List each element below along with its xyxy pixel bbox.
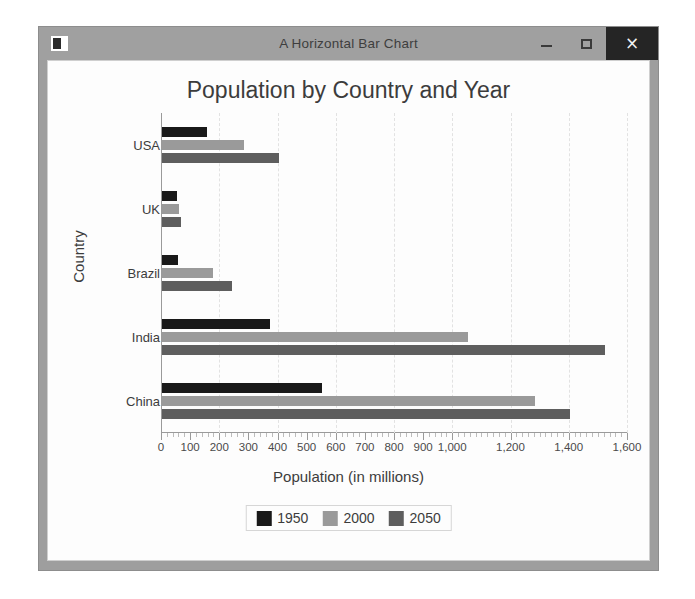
- x-tick-minor: [347, 433, 348, 437]
- bar-usa-1950: [162, 127, 207, 137]
- x-tick-minor: [283, 433, 284, 437]
- x-tick-minor: [551, 433, 552, 437]
- x-tick-minor: [580, 433, 581, 437]
- legend-label-2000: 2000: [343, 510, 374, 526]
- maximize-button[interactable]: [566, 27, 606, 60]
- x-tick-minor: [289, 433, 290, 437]
- x-tick-minor: [540, 433, 541, 437]
- x-tick-label: 0: [158, 441, 164, 453]
- y-tick-label-usa: USA: [100, 138, 160, 153]
- x-tick-minor: [411, 433, 412, 437]
- x-tick-major: [511, 433, 512, 440]
- x-tick-minor: [610, 433, 611, 437]
- x-tick-major: [365, 433, 366, 440]
- bar-india-2050: [162, 345, 605, 355]
- y-tick-label-china: China: [100, 394, 160, 409]
- x-tick-minor: [604, 433, 605, 437]
- x-tick-major: [423, 433, 424, 440]
- chart-title: Population by Country and Year: [48, 77, 649, 104]
- x-tick-minor: [563, 433, 564, 437]
- y-tick-label-india: India: [100, 330, 160, 345]
- y-tick-label-uk: UK: [100, 202, 160, 217]
- x-tick-minor: [435, 433, 436, 437]
- minimize-icon: [541, 45, 552, 47]
- x-tick-minor: [318, 433, 319, 437]
- x-tick-minor: [243, 433, 244, 437]
- x-tick-major: [278, 433, 279, 440]
- x-tick-minor: [534, 433, 535, 437]
- x-tick-minor: [458, 433, 459, 437]
- app-icon: [51, 36, 68, 51]
- x-tick-minor: [196, 433, 197, 437]
- x-tick-major: [219, 433, 220, 440]
- x-tick-minor: [586, 433, 587, 437]
- x-tick-major: [394, 433, 395, 440]
- x-tick-minor: [213, 433, 214, 437]
- legend-label-1950: 1950: [277, 510, 308, 526]
- bar-uk-1950: [162, 191, 177, 201]
- x-tick-minor: [359, 433, 360, 437]
- bar-india-1950: [162, 319, 270, 329]
- x-tick-label: 1,600: [613, 441, 642, 453]
- x-tick-label: 600: [326, 441, 345, 453]
- x-tick-label: 900: [414, 441, 433, 453]
- legend-swatch-1950: [256, 511, 271, 526]
- legend-item-2000[interactable]: 2000: [322, 510, 374, 526]
- minimize-button[interactable]: [526, 27, 566, 60]
- legend-item-1950[interactable]: 1950: [256, 510, 308, 526]
- x-tick-minor: [266, 433, 267, 437]
- x-tick-minor: [499, 433, 500, 437]
- x-tick-label: 1,000: [438, 441, 467, 453]
- application-window: A Horizontal Bar Chart × Population by C…: [38, 26, 659, 571]
- x-tick-minor: [202, 433, 203, 437]
- chart-legend: 195020002050: [245, 505, 451, 531]
- bar-india-2000: [162, 332, 468, 342]
- x-tick-major: [452, 433, 453, 440]
- y-tick-label-brazil: Brazil: [100, 266, 160, 281]
- gridline: [627, 113, 628, 433]
- x-tick-minor: [237, 433, 238, 437]
- legend-item-2050[interactable]: 2050: [389, 510, 441, 526]
- gridline: [452, 113, 453, 433]
- x-tick-label: 300: [239, 441, 258, 453]
- x-tick-minor: [324, 433, 325, 437]
- x-tick-major: [190, 433, 191, 440]
- x-tick-minor: [528, 433, 529, 437]
- x-tick-minor: [272, 433, 273, 437]
- x-tick-minor: [173, 433, 174, 437]
- x-tick-minor: [621, 433, 622, 437]
- x-tick-label: 1,400: [554, 441, 583, 453]
- x-tick-major: [336, 433, 337, 440]
- x-tick-minor: [353, 433, 354, 437]
- x-tick-minor: [481, 433, 482, 437]
- bar-brazil-2000: [162, 268, 213, 278]
- y-axis-tick-labels: ChinaIndiaBrazilUKUSA: [100, 113, 160, 433]
- x-tick-minor: [231, 433, 232, 437]
- x-tick-minor: [382, 433, 383, 437]
- x-tick-minor: [505, 433, 506, 437]
- x-tick-minor: [446, 433, 447, 437]
- x-tick-minor: [178, 433, 179, 437]
- x-tick-minor: [575, 433, 576, 437]
- x-tick-minor: [400, 433, 401, 437]
- x-tick-label: 700: [355, 441, 374, 453]
- x-tick-major: [627, 433, 628, 440]
- legend-swatch-2050: [389, 511, 404, 526]
- close-icon: ×: [625, 35, 639, 52]
- close-button[interactable]: ×: [606, 27, 658, 60]
- legend-label-2050: 2050: [410, 510, 441, 526]
- bar-uk-2000: [162, 204, 179, 214]
- bar-brazil-1950: [162, 255, 178, 265]
- plot-wrapper: Country ChinaIndiaBrazilUKUSA 0100200300…: [48, 113, 649, 523]
- bar-usa-2000: [162, 140, 244, 150]
- x-axis-title: Population (in millions): [48, 468, 649, 485]
- x-tick-minor: [476, 433, 477, 437]
- x-tick-major: [161, 433, 162, 440]
- window-titlebar[interactable]: A Horizontal Bar Chart ×: [39, 27, 658, 60]
- x-tick-minor: [417, 433, 418, 437]
- x-tick-minor: [470, 433, 471, 437]
- bar-usa-2050: [162, 153, 279, 163]
- gridline: [394, 113, 395, 433]
- x-tick-minor: [312, 433, 313, 437]
- x-tick-minor: [342, 433, 343, 437]
